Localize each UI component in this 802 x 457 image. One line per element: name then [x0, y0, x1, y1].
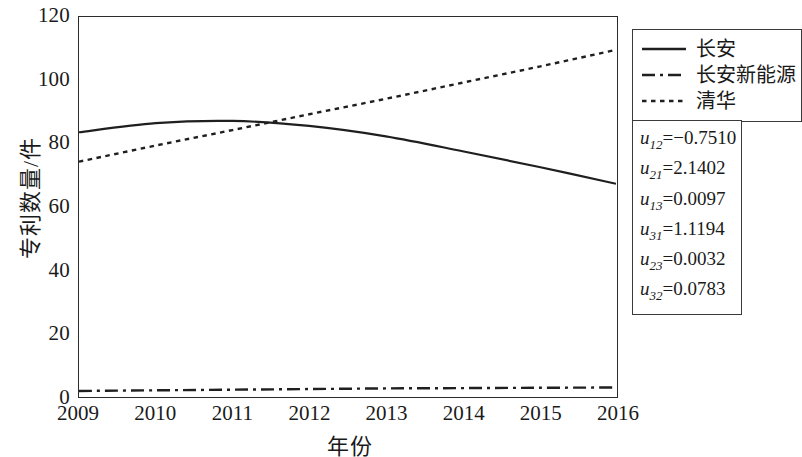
x-tick-label: 2012: [271, 402, 347, 425]
x-tick-label: 2016: [580, 402, 656, 425]
parameter-row: u13=0.0097: [640, 187, 741, 217]
x-tick-label: 2011: [194, 402, 270, 425]
y-tick-label: 20: [22, 323, 70, 344]
y-tick-label: 100: [22, 69, 70, 90]
legend-label: 清华: [696, 91, 736, 111]
legend-item[interactable]: 长安新能源: [633, 62, 801, 88]
series-line-3: [79, 50, 616, 162]
legend-label: 长安: [696, 39, 736, 59]
plot-area: [78, 16, 618, 398]
legend-item[interactable]: 长安: [633, 36, 801, 62]
series-line-2: [79, 387, 616, 390]
parameter-row: u31=1.1194: [640, 217, 741, 247]
parameter-subscript: 31: [650, 228, 663, 243]
parameter-value: =2.1402: [663, 157, 726, 178]
x-tick-label: 2010: [117, 402, 193, 425]
legend-line-sample-solid: [641, 42, 687, 56]
x-tick-label: 2015: [503, 402, 579, 425]
parameter-value: =−0.7510: [663, 127, 737, 148]
legend-line-sample-dashdot: [641, 68, 687, 82]
parameter-symbol: u: [640, 278, 650, 299]
parameter-row: u32=0.0783: [640, 277, 741, 307]
parameter-value: =0.0783: [663, 278, 726, 299]
parameter-value: =0.0097: [663, 188, 726, 209]
legend: 长安长安新能源清华: [632, 29, 802, 122]
legend-item[interactable]: 清华: [633, 88, 801, 114]
y-axis-title: 专利数量/件: [12, 98, 44, 298]
parameter-symbol: u: [640, 188, 650, 209]
parameter-subscript: 12: [650, 137, 663, 152]
x-axis-title: 年份: [0, 428, 700, 457]
series-canvas: [79, 17, 616, 396]
parameter-symbol: u: [640, 248, 650, 269]
legend-label: 长安新能源: [696, 65, 796, 85]
parameter-row: u23=0.0032: [640, 247, 741, 277]
x-tick-label: 2013: [349, 402, 425, 425]
parameter-value: =1.1194: [663, 218, 725, 239]
series-line-1: [79, 121, 616, 184]
parameter-symbol: u: [640, 157, 650, 178]
y-tick-label: 120: [22, 5, 70, 26]
parameter-subscript: 23: [650, 258, 663, 273]
legend-line-sample-dotted: [641, 94, 687, 108]
x-tick-label: 2014: [426, 402, 502, 425]
parameter-subscript: 13: [650, 197, 663, 212]
parameter-symbol: u: [640, 218, 650, 239]
parameter-row: u21=2.1402: [640, 156, 741, 186]
parameter-symbol: u: [640, 127, 650, 148]
parameter-subscript: 21: [650, 167, 663, 182]
x-tick-label: 2009: [40, 402, 116, 425]
parameter-value: =0.0032: [663, 248, 726, 269]
parameter-subscript: 32: [650, 288, 663, 303]
parameter-row: u12=−0.7510: [640, 126, 741, 156]
parameter-annotation-box: u12=−0.7510u21=2.1402u13=0.0097u31=1.119…: [632, 120, 742, 315]
